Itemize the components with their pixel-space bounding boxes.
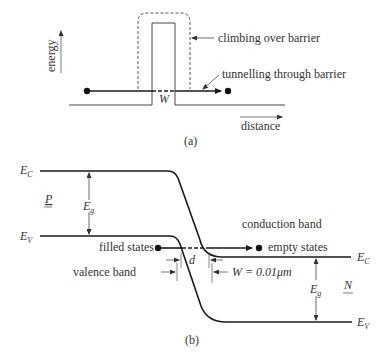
particle-start-dot [84,88,90,94]
particle-end-dot [225,88,231,94]
ec-left-label: EC [19,163,33,179]
empty-states-label: empty states [268,240,328,254]
d-label: d [189,253,196,267]
ev-right-label: EV [356,315,370,331]
region-p-label: P [44,192,53,206]
ev-left-label: EV [19,229,33,245]
tunneling-diagram: energy W climbing over barrier tunnellin… [0,0,384,358]
conduction-band-label: conduction band [242,217,322,231]
eg-right-label: Eg [309,282,321,298]
region-n-label: N [343,278,353,292]
w-label: W = 0.01μm [232,265,292,279]
ec-right-label: EC [356,250,370,266]
valence-band-label: valence band [73,265,136,279]
caption-a: (a) [184,134,197,148]
tunnel-annotation: tunnelling through barrier [222,67,346,81]
empty-states-dot [256,245,262,251]
distance-axis-label: distance [241,119,280,133]
energy-axis-label: energy [44,40,58,72]
eg-left-label: Eg [82,199,94,215]
climb-annotation: climbing over barrier [218,31,320,45]
figure-b: EC EV Eg P filled states empty states co… [19,163,370,347]
climbing-path-dashed [138,13,190,89]
figure-a: energy W climbing over barrier tunnellin… [44,13,346,148]
caption-b: (b) [185,333,199,347]
barrier-width-label: W [159,92,170,106]
tunnel-pointer-arrow [203,75,219,89]
filled-states-label: filled states [99,240,154,254]
